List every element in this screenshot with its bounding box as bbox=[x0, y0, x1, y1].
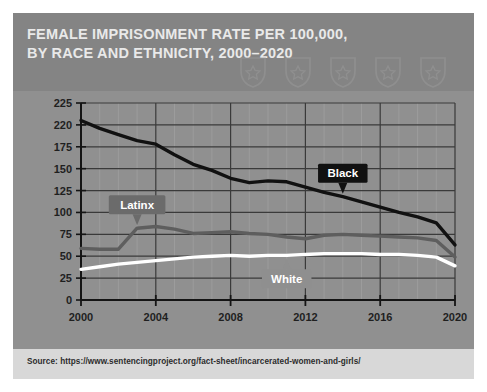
police-badge-icon bbox=[370, 55, 406, 89]
y-tick-label: 100 bbox=[54, 206, 72, 218]
police-badge-icon bbox=[235, 55, 271, 89]
y-tick-label: 220 bbox=[54, 119, 72, 131]
y-tick-label: 0 bbox=[66, 294, 72, 306]
x-tick-label: 2020 bbox=[443, 311, 467, 323]
callout-label: Latinx bbox=[120, 199, 154, 211]
police-badge-icon bbox=[415, 55, 451, 89]
y-tick-label: 225 bbox=[54, 97, 72, 109]
badge-decoration-group bbox=[235, 55, 465, 89]
y-tick-label: 125 bbox=[54, 185, 72, 197]
police-badge-icon bbox=[280, 55, 316, 89]
x-tick-label: 2004 bbox=[144, 311, 169, 323]
x-tick-label: 2012 bbox=[293, 311, 317, 323]
line-chart: 0255075100125150175220225200020042008201… bbox=[13, 91, 474, 349]
chart-plot-area: 0255075100125150175220225200020042008201… bbox=[13, 91, 474, 349]
y-tick-label: 150 bbox=[54, 163, 72, 175]
callout-label: Black bbox=[327, 167, 358, 179]
police-badge-icon bbox=[325, 55, 361, 89]
chart-card: FEMALE IMPRISONMENT RATE PER 100,000, BY… bbox=[13, 13, 474, 379]
y-tick-label: 25 bbox=[60, 272, 72, 284]
y-tick-label: 75 bbox=[60, 228, 72, 240]
y-tick-label: 175 bbox=[54, 141, 72, 153]
source-citation: Source: https://www.sentencingproject.or… bbox=[27, 357, 361, 366]
y-tick-label: 50 bbox=[60, 250, 72, 262]
x-tick-label: 2000 bbox=[69, 311, 93, 323]
chart-header: FEMALE IMPRISONMENT RATE PER 100,000, BY… bbox=[13, 13, 474, 91]
x-tick-label: 2008 bbox=[218, 311, 242, 323]
chart-footer: Source: https://www.sentencingproject.or… bbox=[13, 349, 474, 379]
callout-label: White bbox=[271, 273, 302, 285]
x-tick-label: 2016 bbox=[368, 311, 392, 323]
